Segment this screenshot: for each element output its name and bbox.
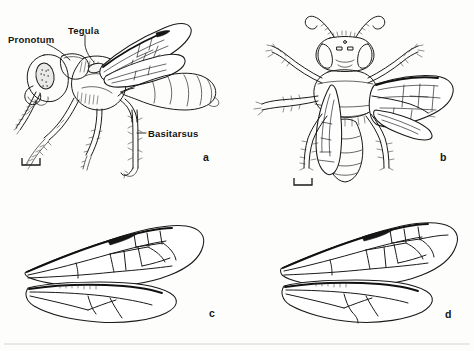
hindleg-trochanter [125, 99, 137, 122]
midleg-tarsus [83, 156, 87, 169]
metasoma-segments [152, 75, 212, 106]
right-antenna [356, 16, 385, 37]
panel-c-artwork [25, 226, 204, 323]
antenna-scape [16, 92, 36, 128]
foreleg-tarsus [27, 139, 45, 163]
propodeum-line [82, 87, 112, 93]
antenna-setae [14, 101, 36, 134]
foreleg-femur [44, 98, 74, 138]
compound-eye [34, 62, 56, 90]
figure-plate: Pronotum Tegula Basitarsus a b c d [0, 0, 474, 351]
b-left-foreleg-2 [272, 52, 322, 83]
scalebar-a [22, 158, 40, 165]
leader-tegula [85, 35, 94, 62]
d-forewing-outline [281, 223, 458, 287]
head-dorsal [316, 37, 374, 72]
label-pronotum: Pronotum [8, 35, 54, 45]
b-right-foreleg [368, 46, 418, 78]
left-antenna [305, 16, 334, 37]
panel-letter-b: b [440, 152, 446, 163]
labrum-dorsal [338, 65, 352, 67]
panel-b-artwork [254, 16, 453, 185]
b-left-midleg-2 [262, 101, 318, 110]
b-left-foreleg [272, 46, 322, 78]
d-hindwing-outline [282, 280, 432, 322]
b-right-hindleg-setae [376, 141, 394, 170]
panel-letter-d: d [445, 309, 451, 320]
panel-d-artwork [281, 223, 458, 323]
plate-artwork [0, 0, 474, 351]
c-forewing-outline [25, 226, 204, 288]
midleg-tarsus-2 [87, 157, 91, 170]
panel-a-artwork [14, 24, 219, 178]
scalebar-b [294, 178, 312, 185]
panel-letter-c: c [209, 308, 215, 319]
c-hindwing-outline [26, 282, 176, 323]
hindleg-femur [132, 110, 133, 168]
label-basitarsus: Basitarsus [148, 129, 199, 139]
pronotal-line [318, 81, 373, 84]
ocelli [337, 41, 353, 50]
panel-letter-a: a [203, 152, 209, 163]
foreleg-setae [25, 120, 64, 169]
hindleg-tibia [137, 110, 138, 168]
clypeus-dorsal [336, 60, 354, 62]
midleg-femur [86, 109, 97, 155]
label-tegula: Tegula [68, 26, 99, 36]
hindleg-basitarsus [121, 168, 133, 175]
b-left-midleg-setae [254, 95, 300, 115]
antenna-flagellum [20, 94, 40, 130]
